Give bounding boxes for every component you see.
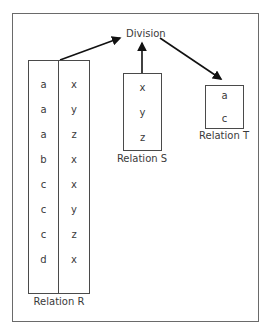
cell: z (59, 229, 89, 241)
cell: y (124, 107, 161, 119)
relation-t-box: a c (205, 85, 244, 129)
cell: z (59, 129, 89, 141)
relation-t-label: Relation T (194, 130, 254, 141)
relation-s-box: x y z (123, 73, 162, 151)
arrow-division-to-t (160, 38, 221, 79)
cell: c (206, 113, 243, 125)
cell: x (59, 179, 89, 191)
cell: c (29, 179, 58, 191)
cell: x (124, 82, 161, 94)
division-label: Division (126, 28, 166, 39)
cell: a (29, 129, 58, 141)
cell: a (206, 90, 243, 102)
cell: a (29, 79, 58, 91)
cell: x (59, 154, 89, 166)
arrow-r-to-division (60, 38, 120, 60)
cell: y (59, 204, 89, 216)
cell: d (29, 254, 58, 266)
cell: c (29, 204, 58, 216)
cell: c (29, 229, 58, 241)
cell: x (59, 254, 89, 266)
cell: a (29, 104, 58, 116)
cell: y (59, 104, 89, 116)
cell: z (124, 132, 161, 144)
relation-s-label: Relation S (112, 153, 172, 164)
cell: x (59, 79, 89, 91)
relation-r-col1: a a a b c c c d (29, 61, 58, 293)
relation-r-label: Relation R (28, 296, 90, 307)
relation-r-box: a a a b c c c d x y z x x y z x (28, 60, 90, 294)
relation-r-col2: x y z x x y z x (59, 61, 89, 293)
cell: b (29, 154, 58, 166)
